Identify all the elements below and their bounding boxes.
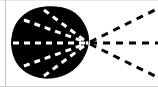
scan-edge-bottom — [0, 86, 158, 87]
figure-container: Dark blob with converging white dashed r… — [0, 0, 158, 87]
scanned-figure-canvas: Dark blob with converging white dashed r… — [0, 0, 158, 87]
scan-edge-top — [0, 0, 158, 1]
scan-edge-left — [5, 0, 6, 87]
